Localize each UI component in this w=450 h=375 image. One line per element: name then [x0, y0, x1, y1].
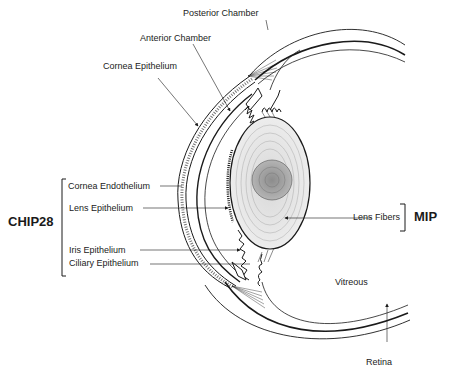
- label-retina: Retina: [366, 358, 392, 367]
- label-anterior-chamber: Anterior Chamber: [140, 34, 211, 43]
- mip-bracket: [400, 204, 405, 231]
- label-posterior-chamber: Posterior Chamber: [183, 9, 259, 18]
- label-cornea-epithelium: Cornea Epithelium: [103, 62, 177, 71]
- sclera-top: [250, 29, 405, 90]
- label-iris-epithelium: Iris Epithelium: [69, 246, 126, 255]
- chip28-bracket: [62, 179, 66, 276]
- label-cornea-endothelium: Cornea Endothelium: [68, 182, 150, 191]
- label-lens-epithelium: Lens Epithelium: [69, 204, 133, 213]
- lens-nucleus: [252, 160, 292, 200]
- label-lens-fibers: Lens Fibers: [353, 213, 400, 222]
- group-label-chip28: CHIP28: [8, 215, 54, 228]
- sclera-bottom: [205, 282, 410, 339]
- label-ciliary-epithelium: Ciliary Epithelium: [69, 259, 139, 268]
- group-label-mip: MIP: [414, 210, 437, 223]
- label-vitreous: Vitreous: [335, 278, 368, 287]
